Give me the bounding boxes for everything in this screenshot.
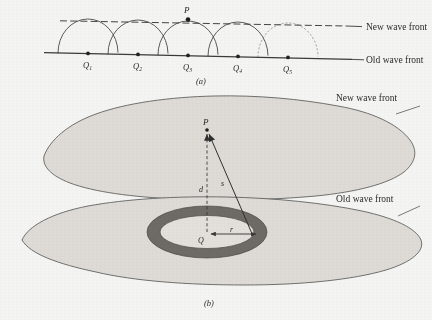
point-p-label-a: P bbox=[183, 5, 190, 15]
physics-figure-canvas: Q1 Q2 Q3 Q4 Q5 P New wave front Old wa bbox=[0, 0, 432, 320]
old-wavefront-leader-b bbox=[398, 206, 420, 216]
source-dot-q5 bbox=[286, 56, 290, 60]
wavelet-arc-5 bbox=[258, 23, 318, 57]
wavelet-arc-3 bbox=[158, 21, 218, 55]
panel-caption-a: (a) bbox=[196, 76, 206, 86]
new-wavefront-blob bbox=[44, 96, 415, 200]
wavelet-arc-2 bbox=[108, 20, 168, 54]
source-dot-q2 bbox=[136, 53, 140, 57]
source-label-q2: Q2 bbox=[133, 61, 142, 72]
source-label-q4: Q4 bbox=[233, 63, 242, 74]
figure-root: Q1 Q2 Q3 Q4 Q5 P New wave front Old wa bbox=[0, 0, 432, 320]
point-p-dot-a bbox=[186, 17, 191, 22]
new-wavefront-label-b: New wave front bbox=[336, 93, 398, 103]
new-wavefront-leader-a bbox=[346, 26, 362, 27]
source-dot-q3 bbox=[186, 54, 190, 58]
source-label-q3: Q3 bbox=[183, 62, 192, 73]
point-p-dot-b bbox=[205, 128, 209, 132]
source-label-q5: Q5 bbox=[283, 64, 292, 75]
panel-a: Q1 Q2 Q3 Q4 Q5 P New wave front Old wa bbox=[44, 5, 428, 86]
old-wavefront-label-b: Old wave front bbox=[336, 194, 394, 204]
distance-s-label: s bbox=[221, 179, 224, 188]
source-dot-q4 bbox=[236, 55, 240, 59]
wavelet-arc-4 bbox=[208, 22, 268, 56]
source-dots-a bbox=[86, 52, 290, 60]
point-p-label-b: P bbox=[202, 117, 209, 127]
source-label-q1: Q1 bbox=[83, 60, 92, 71]
source-q-label-b: Q bbox=[198, 236, 204, 245]
source-dot-q1 bbox=[86, 52, 90, 56]
new-wavefront-label-a: New wave front bbox=[366, 22, 428, 32]
old-wavefront-line-a bbox=[44, 53, 352, 60]
old-wavefront-label-a: Old wave front bbox=[366, 55, 424, 65]
panel-caption-b: (b) bbox=[204, 298, 214, 308]
wavelet-arc-1 bbox=[58, 19, 118, 53]
new-wavefront-leader-b bbox=[396, 106, 420, 114]
panel-b: P d s Q r New wave front Old wave front … bbox=[22, 93, 422, 308]
source-labels-a: Q1 Q2 Q3 Q4 Q5 bbox=[83, 60, 292, 75]
